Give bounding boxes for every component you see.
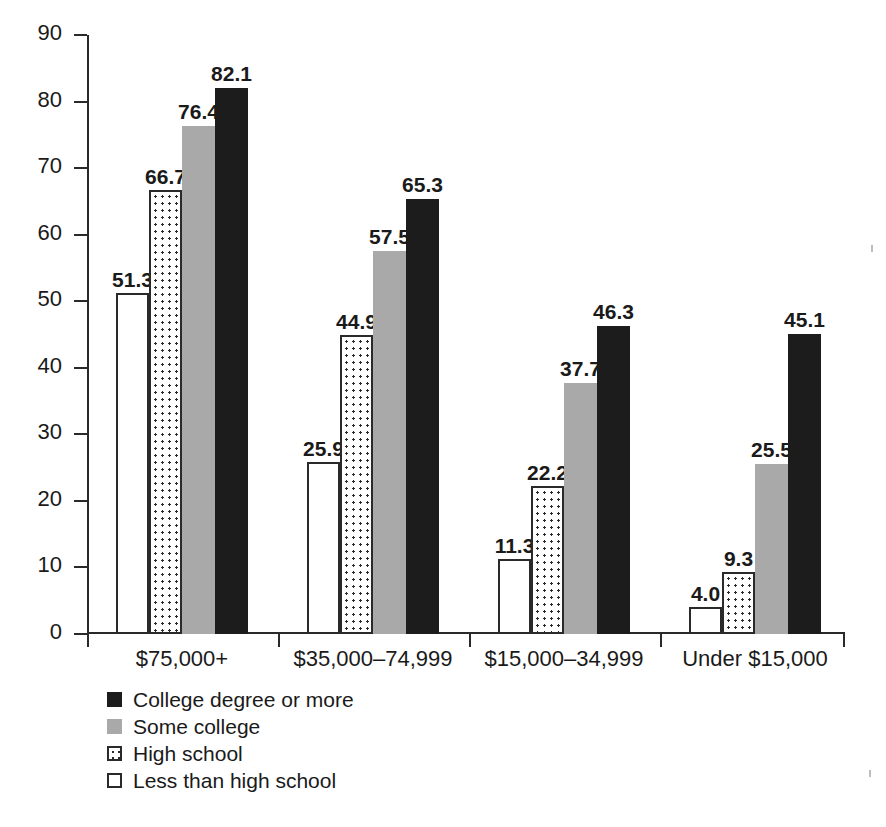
- legend-item-label: Less than high school: [133, 770, 336, 791]
- x-axis-category-label: $75,000+: [72, 646, 292, 672]
- bar[interactable]: 45.1: [788, 334, 821, 634]
- legend-swatch-icon: [107, 719, 122, 734]
- chart-legend: College degree or moreSome collegeHigh s…: [107, 686, 354, 794]
- y-axis-tick-label: 50: [38, 288, 62, 310]
- x-axis-category-label: Under $15,000: [645, 646, 865, 672]
- y-axis-tick: 20: [74, 500, 87, 502]
- legend-swatch-icon: [107, 773, 122, 788]
- bar[interactable]: 46.3: [597, 326, 630, 634]
- bar[interactable]: 9.3: [722, 572, 755, 634]
- y-axis-tick-label: 80: [38, 89, 62, 111]
- bar-chart: 9080706050403020100 51.366.776.482.125.9…: [0, 0, 886, 827]
- y-axis-tick: 30: [74, 433, 87, 435]
- bar[interactable]: 65.3: [406, 199, 439, 634]
- bar-value-label: 44.9: [336, 311, 377, 332]
- bar[interactable]: 11.3: [498, 559, 531, 634]
- y-axis-tick: 10: [74, 566, 87, 568]
- x-axis-category-label: $35,000–74,999: [263, 646, 483, 672]
- bar-value-label: 11.3: [495, 535, 535, 556]
- plot-area: 9080706050403020100 51.366.776.482.125.9…: [87, 35, 845, 634]
- y-axis-tick-label: 90: [38, 22, 62, 44]
- y-axis-tick-label: 20: [38, 488, 62, 510]
- x-axis-category-label: $15,000–34,999: [454, 646, 674, 672]
- y-axis-tick: 70: [74, 167, 87, 169]
- legend-item[interactable]: College degree or more: [107, 686, 354, 713]
- bar-group-bars: 11.322.237.746.3: [498, 35, 630, 634]
- bar[interactable]: 82.1: [215, 88, 248, 634]
- legend-swatch-icon: [107, 692, 122, 707]
- bar[interactable]: 51.3: [116, 293, 149, 634]
- y-axis-tick: 50: [74, 300, 87, 302]
- y-axis-tick: 80: [74, 101, 87, 103]
- scan-speck: [871, 245, 873, 252]
- y-axis-tick-label: 70: [38, 155, 62, 177]
- bar-value-label: 66.7: [145, 166, 186, 187]
- y-axis-tick-label: 60: [38, 222, 62, 244]
- bar-value-label: 76.4: [178, 101, 219, 122]
- bar-value-label: 9.3: [724, 548, 753, 569]
- bar-group-bars: 51.366.776.482.1: [116, 35, 248, 634]
- bar-value-label: 46.3: [593, 301, 634, 322]
- bar[interactable]: 4.0: [689, 607, 722, 634]
- legend-item[interactable]: Less than high school: [107, 767, 354, 794]
- y-axis-tick-label: 30: [38, 421, 62, 443]
- y-axis-tick-label: 40: [38, 355, 62, 377]
- y-axis-tick-label: 0: [50, 621, 62, 643]
- bar-value-label: 45.1: [784, 309, 825, 330]
- bar-value-label: 37.7: [560, 358, 601, 379]
- y-axis-tick-label: 10: [38, 554, 62, 576]
- y-axis-line: [87, 35, 89, 634]
- bar-value-label: 22.2: [527, 462, 568, 483]
- bar[interactable]: 25.5: [755, 464, 788, 634]
- bar-value-label: 25.5: [751, 439, 792, 460]
- bar[interactable]: 22.2: [531, 486, 564, 634]
- scan-speck: [869, 770, 871, 777]
- legend-item[interactable]: Some college: [107, 713, 354, 740]
- legend-swatch-icon: [107, 746, 122, 761]
- bar[interactable]: 44.9: [340, 335, 373, 634]
- bar[interactable]: 37.7: [564, 383, 597, 634]
- y-axis-tick: 40: [74, 367, 87, 369]
- bar-value-label: 82.1: [211, 63, 252, 84]
- legend-item[interactable]: High school: [107, 740, 354, 767]
- bar[interactable]: 66.7: [149, 190, 182, 634]
- bar-value-label: 4.0: [691, 583, 720, 604]
- bar[interactable]: 57.5: [373, 251, 406, 634]
- bar-value-label: 25.9: [303, 438, 344, 459]
- y-axis-tick: 60: [74, 234, 87, 236]
- bar[interactable]: 25.9: [307, 462, 340, 634]
- legend-item-label: College degree or more: [133, 689, 354, 710]
- bar[interactable]: 76.4: [182, 126, 215, 634]
- legend-item-label: Some college: [133, 716, 260, 737]
- bar-value-label: 57.5: [369, 226, 410, 247]
- y-axis-tick: 90: [74, 34, 87, 36]
- bar-group-bars: 25.944.957.565.3: [307, 35, 439, 634]
- bar-value-label: 51.3: [112, 269, 153, 290]
- bar-group-bars: 4.09.325.545.1: [689, 35, 821, 634]
- bar-value-label: 65.3: [402, 174, 443, 195]
- y-axis-tick: 0: [74, 633, 87, 635]
- legend-item-label: High school: [133, 743, 243, 764]
